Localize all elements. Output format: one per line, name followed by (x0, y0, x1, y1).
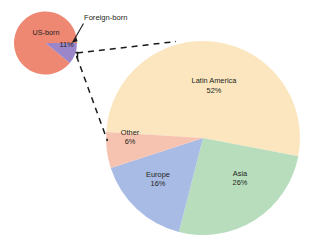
label-other: Other (121, 128, 140, 137)
pie-chart-figure: US-born 11% Foreign-born Latin America 5… (0, 0, 311, 243)
label-us-born: US-born (33, 28, 60, 37)
label-latin-america-percent: 52% (207, 86, 222, 95)
label-other-percent: 6% (125, 137, 136, 146)
label-europe: Europe (146, 170, 170, 179)
label-europe-percent: 16% (151, 179, 166, 188)
label-asia-percent: 26% (233, 178, 248, 187)
connector-lower (77, 56, 108, 141)
label-latin-america: Latin America (192, 76, 238, 85)
chart-canvas: US-born 11% Foreign-born Latin America 5… (0, 0, 311, 243)
label-asia: Asia (233, 169, 248, 178)
callout-label-foreign-born: Foreign-born (84, 13, 127, 22)
label-foreign-born-percent: 11% (59, 40, 74, 49)
